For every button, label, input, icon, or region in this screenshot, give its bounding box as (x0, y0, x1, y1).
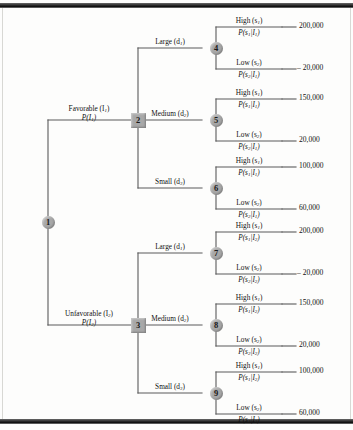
node-5-label: 5 (214, 116, 218, 125)
node-3-label: 3 (136, 321, 140, 330)
outcome-state-n4-high: High (s1) (236, 17, 263, 25)
outcome-state-n5-high: High (s1) (236, 89, 263, 97)
node-6[interactable]: 6 (210, 182, 223, 195)
payoff-n8-low: 20,000 (299, 341, 320, 349)
outcome-probability-n7-low: P(s2|I2) (238, 276, 260, 284)
outcome-state-n6-low: Low (s2) (236, 199, 261, 207)
decision-tree-canvas: 1 2 3 4 5 6 7 8 9 Favorable (I1) P(I1) U… (0, 0, 353, 430)
payoff-n6-low: 60,000 (299, 204, 320, 212)
payoff-n5-high: 150,000 (299, 94, 323, 102)
node-7-label: 7 (214, 249, 218, 258)
node-9-label: 9 (214, 389, 218, 398)
decision-label-small-favorable: Small (d3) (155, 178, 185, 186)
payoff-n7-high: 200,000 (299, 227, 323, 235)
node-3[interactable]: 3 (131, 318, 146, 333)
outcome-state-n6-high: High (s1) (236, 157, 263, 165)
decision-label-large-unfavorable: Large (d1) (155, 243, 185, 251)
node-2[interactable]: 2 (131, 113, 146, 128)
decision-label-large-favorable: Large (d1) (155, 38, 185, 46)
outcome-probability-n8-high: P(s1|I2) (238, 306, 260, 314)
outcome-state-n4-low: Low (s2) (236, 59, 261, 67)
outcome-probability-n5-low: P(s2|I1) (238, 143, 260, 151)
branch-label-favorable: Favorable (I1) P(I1) (69, 104, 110, 122)
payoff-n9-low: 60,000 (299, 409, 320, 417)
outcome-probability-n4-high: P(s1|I1) (238, 29, 260, 37)
unfavorable-probability: P(I2) (65, 318, 113, 327)
favorable-probability: P(I1) (69, 113, 110, 122)
node-4-label: 4 (214, 44, 218, 53)
outcome-state-n7-high: High (s1) (236, 222, 263, 230)
node-2-label: 2 (136, 116, 140, 125)
outcome-probability-n9-high: P(s1|I2) (238, 374, 260, 382)
payoff-n4-high: 200,000 (299, 22, 323, 30)
outcome-state-n5-low: Low (s2) (236, 131, 261, 139)
node-1[interactable]: 1 (42, 216, 55, 229)
payoff-n9-high: 100,000 (299, 367, 323, 375)
outcome-probability-n6-high: P(s1|I1) (238, 169, 260, 177)
node-5[interactable]: 5 (210, 114, 223, 127)
decision-label-medium-favorable: Medium (d2) (151, 110, 189, 118)
decision-label-medium-unfavorable: Medium (d2) (151, 315, 189, 323)
outcome-probability-n8-low: P(s2|I2) (238, 348, 260, 356)
payoff-n8-high: 150,000 (299, 299, 323, 307)
node-8-label: 8 (214, 321, 218, 330)
outcome-state-n9-low: Low (s2) (236, 404, 261, 412)
node-7[interactable]: 7 (210, 247, 223, 260)
outcome-state-n7-low: Low (s2) (236, 264, 261, 272)
outcome-probability-n9-low: P(s2|I2) (238, 416, 260, 424)
outcome-state-n8-low: Low (s2) (236, 336, 261, 344)
figure-frame: 1 2 3 4 5 6 7 8 9 Favorable (I1) P(I1) U… (0, 0, 353, 430)
branch-label-unfavorable: Unfavorable (I2) P(I2) (65, 309, 113, 327)
outcome-state-n8-high: High (s1) (236, 294, 263, 302)
outcome-probability-n7-high: P(s1|I2) (238, 234, 260, 242)
outcome-probability-n4-low: P(s2|I1) (238, 71, 260, 79)
payoff-n7-low: – 20,000 (297, 269, 323, 277)
node-9[interactable]: 9 (210, 387, 223, 400)
node-8[interactable]: 8 (210, 319, 223, 332)
favorable-label: Favorable (I1) (69, 104, 110, 113)
node-1-label: 1 (46, 218, 50, 227)
node-4[interactable]: 4 (210, 42, 223, 55)
unfavorable-label: Unfavorable (I2) (65, 309, 113, 318)
payoff-n4-low: – 20,000 (297, 64, 323, 72)
node-6-label: 6 (214, 184, 218, 193)
outcome-state-n9-high: High (s1) (236, 362, 263, 370)
payoff-n6-high: 100,000 (299, 162, 323, 170)
outcome-probability-n5-high: P(s1|I1) (238, 101, 260, 109)
outcome-probability-n6-low: P(s2|I1) (238, 211, 260, 219)
decision-label-small-unfavorable: Small (d3) (155, 383, 185, 391)
payoff-n5-low: 20,000 (299, 136, 320, 144)
